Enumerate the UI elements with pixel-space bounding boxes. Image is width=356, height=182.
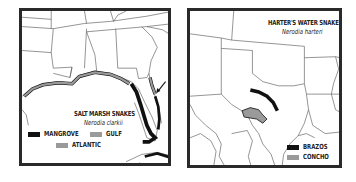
map-title: HARTER'S WATER SNAKES bbox=[268, 19, 342, 27]
concho-range bbox=[242, 108, 267, 124]
harters-water-snake-map: HARTER'S WATER SNAKES Nerodia harteri BR… bbox=[187, 8, 342, 168]
mangrove-range-cuba bbox=[145, 153, 171, 158]
scientific-name: Nerodia harteri bbox=[282, 28, 323, 36]
brazos-swatch bbox=[287, 145, 299, 150]
legend-item-atlantic: ATLANTIC bbox=[56, 141, 106, 149]
legend-item-gulf: GULF bbox=[90, 130, 125, 138]
mangrove-range-east bbox=[155, 96, 159, 129]
mangrove-swatch bbox=[28, 132, 40, 137]
gulf-swatch bbox=[90, 132, 102, 137]
map-title: SALT MARSH SNAKES bbox=[74, 110, 135, 118]
legend-item-concho: CONCHO bbox=[287, 153, 334, 161]
scientific-name: Nerodia clarkii bbox=[84, 119, 123, 127]
legend-item-brazos: BRAZOS bbox=[287, 143, 332, 151]
concho-swatch bbox=[287, 155, 299, 160]
salt-marsh-snake-map: SALT MARSH SNAKES Nerodia clarkii MANGRO… bbox=[19, 8, 171, 166]
brazos-range bbox=[250, 90, 277, 111]
atlantic-swatch bbox=[56, 143, 68, 148]
legend-item-mangrove: MANGROVE bbox=[28, 130, 85, 138]
